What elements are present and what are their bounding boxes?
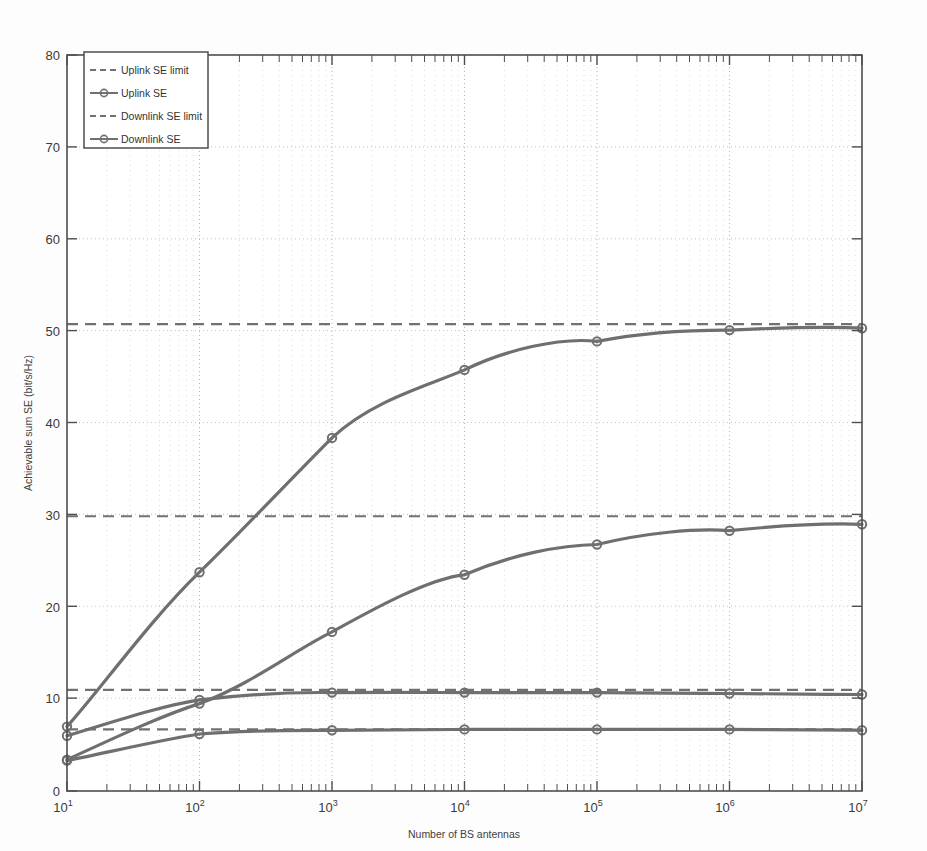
- x-tick-label: 105: [583, 798, 602, 815]
- y-tick-label: 0: [53, 784, 60, 799]
- y-tick-label: 30: [46, 508, 60, 523]
- x-axis-title: Number of BS antennas: [408, 828, 520, 840]
- chart-figure: 80 70 60 50 40 30 20 10 0 101 102 103 10…: [0, 0, 927, 851]
- legend-label: Uplink SE limit: [121, 64, 189, 76]
- y-tick-label: 60: [46, 232, 60, 247]
- y-tick-label: 10: [46, 691, 60, 706]
- y-tick-label: 70: [46, 140, 60, 155]
- y-tick-label: 50: [46, 324, 60, 339]
- chart-legend[interactable]: Uplink SE limit Uplink SE Downlink SE li…: [84, 52, 208, 148]
- y-tick-label: 20: [46, 600, 60, 615]
- x-tick-label: 106: [715, 798, 734, 815]
- chart-svg: 80 70 60 50 40 30 20 10 0 101 102 103 10…: [0, 0, 927, 851]
- legend-item-downlink-se[interactable]: Downlink SE: [90, 133, 181, 145]
- x-tick-label: 103: [318, 798, 337, 815]
- x-tick-label: 107: [848, 798, 867, 815]
- x-tick-label: 104: [450, 798, 469, 815]
- x-tick-label: 102: [185, 798, 204, 815]
- y-tick-label: 80: [46, 48, 60, 63]
- y-axis-title: Achievable sum SE (bit/s/Hz): [22, 355, 34, 491]
- legend-label: Uplink SE: [121, 87, 167, 99]
- legend-label: Downlink SE: [121, 133, 181, 145]
- y-axis-tick-labels: 80 70 60 50 40 30 20 10 0: [46, 48, 60, 799]
- x-axis-tick-labels: 101 102 103 104 105 106 107: [53, 798, 867, 815]
- figure-page: 80 70 60 50 40 30 20 10 0 101 102 103 10…: [0, 0, 927, 851]
- legend-label: Downlink SE limit: [121, 110, 202, 122]
- x-tick-label: 101: [53, 798, 72, 815]
- y-tick-label: 40: [46, 416, 60, 431]
